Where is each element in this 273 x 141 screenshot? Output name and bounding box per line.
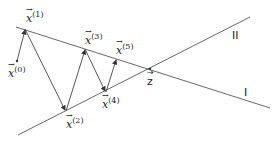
start-point xyxy=(16,60,18,62)
projection-diagram: x(0) x(1) x(2) x(3) x(4) x(5) z II I xyxy=(0,0,273,141)
label-x5: x(5) xyxy=(116,43,134,56)
label-z: z xyxy=(147,76,153,87)
label-x3: x(3) xyxy=(85,33,103,46)
label-line-II: II xyxy=(232,29,239,42)
label-x4: x(4) xyxy=(102,97,120,110)
label-x0: x(0) xyxy=(8,66,26,79)
label-x1: x(1) xyxy=(26,11,44,24)
label-x2: x(2) xyxy=(66,117,84,130)
line-II xyxy=(18,17,250,135)
label-line-I: I xyxy=(244,86,247,99)
